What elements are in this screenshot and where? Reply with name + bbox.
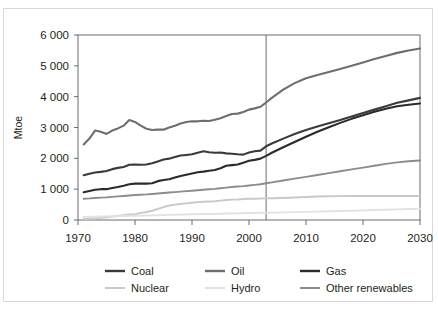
x-tick-label: 2000 <box>236 232 262 244</box>
y-tick-label: 5 000 <box>40 60 69 72</box>
legend-label-hydro: Hydro <box>231 282 260 294</box>
x-tick-label: 1970 <box>65 232 91 244</box>
x-tick-label: 1980 <box>122 232 148 244</box>
series-line-oil <box>84 49 420 145</box>
y-tick-label: 6 000 <box>40 29 69 41</box>
x-tick-label: 2010 <box>293 232 319 244</box>
line-chart: 01 0002 0003 0004 0005 0006 000197019801… <box>0 0 438 310</box>
x-tick-label: 1990 <box>179 232 205 244</box>
series-line-hydro <box>84 209 420 217</box>
y-tick-label: 3 000 <box>40 122 69 134</box>
x-tick-label: 2030 <box>407 232 433 244</box>
y-tick-label: 4 000 <box>40 91 69 103</box>
y-tick-label: 0 <box>63 214 69 226</box>
legend-label-coal: Coal <box>131 265 154 277</box>
x-tick-label: 2020 <box>350 232 376 244</box>
chart-canvas: 01 0002 0003 0004 0005 0006 000197019801… <box>0 0 438 310</box>
y-axis-title: Mtoe <box>12 116 24 140</box>
legend-label-gas: Gas <box>326 265 347 277</box>
legend-label-oil: Oil <box>231 265 244 277</box>
y-tick-label: 1 000 <box>40 183 69 195</box>
plot-frame <box>78 35 420 220</box>
legend-label-other-renewables: Other renewables <box>326 282 413 294</box>
legend-label-nuclear: Nuclear <box>131 282 169 294</box>
series-line-gas <box>84 103 420 192</box>
y-tick-label: 2 000 <box>40 152 69 164</box>
series-line-other-renewables <box>84 160 420 198</box>
